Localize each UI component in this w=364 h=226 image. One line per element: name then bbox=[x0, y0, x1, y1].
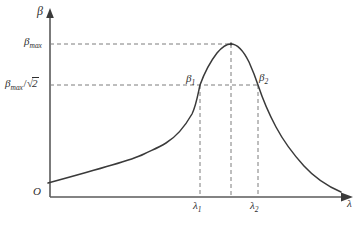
beta2-subscript: 2 bbox=[264, 77, 268, 86]
origin-label: O bbox=[33, 186, 41, 197]
radicand: 2 bbox=[32, 77, 39, 89]
peak-point-marker bbox=[230, 43, 233, 46]
beta-max-label: βmax bbox=[24, 36, 42, 50]
lambda2-label: λ2 bbox=[250, 200, 259, 214]
sqrt-icon: √2 bbox=[27, 77, 39, 89]
y-axis-arrow-icon bbox=[46, 8, 54, 18]
resonance-curve-figure: β λ O βmax βmax/√2 β1 β2 λ1 λ2 bbox=[0, 0, 364, 226]
half-power-subscript: max bbox=[10, 83, 22, 92]
y-axis-label: β bbox=[37, 5, 43, 17]
lambda2-subscript: 2 bbox=[255, 205, 259, 214]
beta1-subscript: 1 bbox=[191, 78, 195, 87]
lambda1-subscript: 1 bbox=[198, 205, 202, 214]
half-power-label: βmax/√2 bbox=[5, 77, 39, 92]
beta-max-subscript: max bbox=[29, 41, 41, 50]
beta1-label: β1 bbox=[186, 73, 195, 87]
resonance-curve bbox=[48, 44, 341, 192]
x-axis-label: λ bbox=[347, 198, 352, 209]
beta2-label: β2 bbox=[259, 72, 268, 86]
plot-canvas bbox=[0, 0, 364, 226]
lambda1-label: λ1 bbox=[193, 200, 202, 214]
